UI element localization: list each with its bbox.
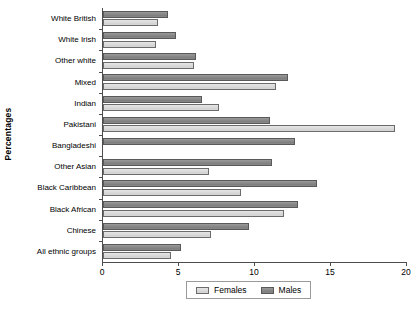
category-label: Mixed: [14, 72, 100, 93]
x-axis-tick: [330, 262, 331, 266]
y-axis-tick: [99, 50, 103, 51]
y-axis-tick: [99, 114, 103, 115]
bar-females: [103, 210, 284, 217]
legend-label: Males: [279, 285, 302, 295]
x-axis-tick: [406, 262, 407, 266]
y-axis-tick: [99, 72, 103, 73]
bars-container: [103, 8, 407, 262]
y-axis-tick: [99, 135, 103, 136]
legend-swatch-females: [196, 287, 209, 294]
category-label: Other Asian: [14, 156, 100, 177]
category-label: Other white: [14, 50, 100, 71]
legend-swatch-males: [261, 287, 274, 294]
bar-males: [103, 159, 272, 166]
category-label: Pakistani: [14, 114, 100, 135]
bar-males: [103, 201, 298, 208]
bar-group: [103, 199, 407, 220]
bar-females: [103, 189, 241, 196]
bar-group: [103, 50, 407, 71]
bar-group: [103, 241, 407, 262]
bar-group: [103, 72, 407, 93]
bar-females: [103, 41, 156, 48]
x-axis-tick: [178, 262, 179, 266]
plot-area: [102, 8, 407, 262]
bar-females: [103, 125, 395, 132]
y-axis-tick: [99, 199, 103, 200]
bar-males: [103, 74, 288, 81]
x-axis-tick-label: 5: [176, 267, 181, 277]
y-axis-tick: [99, 241, 103, 242]
bar-males: [103, 244, 181, 251]
bar-males: [103, 138, 295, 145]
y-axis-tick: [99, 220, 103, 221]
legend-label: Females: [214, 285, 247, 295]
bar-females: [103, 231, 211, 238]
category-label: Bangladeshi: [14, 135, 100, 156]
y-axis-tick: [99, 29, 103, 30]
x-axis-tick-label: 10: [249, 267, 258, 277]
bar-males: [103, 53, 196, 60]
bar-males: [103, 223, 249, 230]
legend-item-males: Males: [261, 285, 302, 295]
y-axis-tick: [99, 156, 103, 157]
bar-females: [103, 19, 158, 26]
category-label: White Irish: [14, 29, 100, 50]
x-axis-tick-label: 15: [325, 267, 334, 277]
category-label: White British: [14, 8, 100, 29]
bar-group: [103, 8, 407, 29]
chart-legend: FemalesMales: [186, 281, 311, 299]
y-axis-tick: [99, 93, 103, 94]
bar-males: [103, 117, 270, 124]
category-axis-labels: White BritishWhite IrishOther whiteMixed…: [14, 8, 100, 262]
bar-males: [103, 32, 176, 39]
bar-group: [103, 114, 407, 135]
bar-group: [103, 220, 407, 241]
bar-males: [103, 96, 202, 103]
y-axis-tick: [99, 177, 103, 178]
x-axis-tick: [102, 262, 103, 266]
bar-males: [103, 180, 317, 187]
bar-females: [103, 62, 194, 69]
category-label: Chinese: [14, 220, 100, 241]
bar-females: [103, 168, 209, 175]
bar-females: [103, 252, 171, 259]
legend-item-females: Females: [196, 285, 247, 295]
bar-group: [103, 156, 407, 177]
category-label: All ethnic groups: [14, 241, 100, 262]
bar-group: [103, 29, 407, 50]
x-axis-tick-label: 0: [100, 267, 105, 277]
x-axis-tick: [254, 262, 255, 266]
bar-chart: Percentages White BritishWhite IrishOthe…: [0, 0, 418, 315]
y-axis-title-label: Percentages: [3, 108, 13, 161]
bar-group: [103, 93, 407, 114]
bar-group: [103, 135, 407, 156]
x-axis-tick-label: 20: [401, 267, 410, 277]
category-label: Black Caribbean: [14, 177, 100, 198]
category-label: Black African: [14, 199, 100, 220]
bar-group: [103, 177, 407, 198]
bar-females: [103, 104, 219, 111]
bar-males: [103, 11, 168, 18]
category-label: Indian: [14, 93, 100, 114]
bar-females: [103, 83, 276, 90]
